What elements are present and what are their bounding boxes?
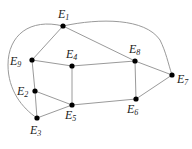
node-label-e4: E4 <box>65 47 77 62</box>
node-e1 <box>60 23 65 28</box>
node-e8 <box>132 58 137 63</box>
edge-e6-e7 <box>136 75 172 99</box>
edge-e2-e3 <box>35 91 37 118</box>
node-e4 <box>69 63 74 68</box>
node-e2 <box>32 88 37 93</box>
node-e9 <box>29 57 34 62</box>
node-e7 <box>169 72 174 77</box>
node-label-e9: E9 <box>9 54 21 69</box>
node-label-e7: E7 <box>176 72 189 87</box>
node-label-e8: E8 <box>128 42 140 57</box>
edge-e9-e2 <box>32 60 35 91</box>
edge-e8-e6 <box>135 61 136 99</box>
node-label-e1: E1 <box>57 7 69 22</box>
edge-e1-e9 <box>32 26 63 60</box>
node-label-e6: E6 <box>126 102 138 117</box>
graph-diagram: E1E2E3E4E5E6E7E8E9 <box>0 0 192 149</box>
edge-e4-e8 <box>72 61 135 66</box>
node-label-e3: E3 <box>29 123 41 138</box>
node-label-e5: E5 <box>64 108 76 123</box>
node-e6 <box>133 96 138 101</box>
node-e3 <box>34 115 39 120</box>
edge-e2-e5 <box>35 91 72 105</box>
curved-edge-e1-e7 <box>63 21 172 75</box>
node-label-e2: E2 <box>16 84 28 99</box>
edge-e8-e7 <box>135 61 172 75</box>
node-e5 <box>69 102 74 107</box>
